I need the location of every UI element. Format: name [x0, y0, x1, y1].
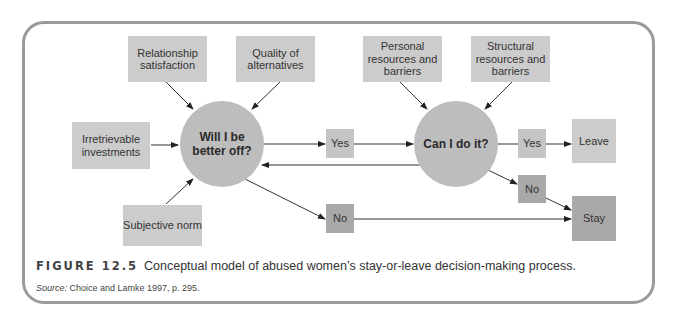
decision-can-i-do-it: Can I do it?	[414, 101, 498, 187]
figure-caption: FIGURE 12.5Conceptual model of abused wo…	[36, 259, 576, 273]
node-stay: Stay	[572, 196, 616, 241]
node-quality-of-alternatives: Quality of alternatives	[236, 36, 315, 82]
node-leave: Leave	[572, 119, 616, 163]
source-label: Source:	[36, 283, 67, 293]
arrow-norm-to-better-off	[166, 179, 193, 204]
arrow-personal-to-can-do	[400, 82, 427, 109]
arrow-quality-to-better-off	[252, 82, 280, 109]
node-personal-resources: Personal resources and barriers	[363, 36, 442, 82]
arrow-relationship-to-better-off	[166, 82, 193, 109]
node-relationship-satisfaction: Relationship satisfaction	[128, 36, 207, 82]
node-no-1: No	[326, 204, 354, 233]
figure-label: FIGURE 12.5	[36, 259, 138, 273]
arrow-can-do-to-no	[488, 170, 517, 184]
node-structural-resources: Structural resources and barriers	[471, 36, 550, 82]
decision-label: Can I do it?	[423, 137, 488, 151]
node-irretrievable-investments: Irretrievable investments	[72, 122, 150, 169]
arrow-better-off-to-no	[245, 179, 325, 219]
node-no-2: No	[518, 175, 546, 203]
node-subjective-norm: Subjective norm	[123, 205, 202, 246]
decision-label: Will I be better off?	[187, 130, 257, 158]
arrow-structural-to-can-do	[485, 82, 512, 109]
figure-caption-text: Conceptual model of abused women’s stay-…	[144, 259, 576, 273]
arrow-no-to-stay-2	[546, 198, 571, 210]
node-yes-2: Yes	[518, 129, 546, 158]
source-text: Choice and Lamke 1997, p. 295.	[67, 283, 200, 293]
node-yes-1: Yes	[326, 129, 354, 158]
figure-source: Source: Choice and Lamke 1997, p. 295.	[36, 283, 200, 293]
decision-will-i-be-better-off: Will I be better off?	[180, 101, 264, 187]
